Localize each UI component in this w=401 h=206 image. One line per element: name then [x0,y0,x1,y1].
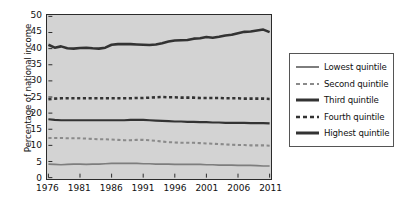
x-tick-label: 1996 [163,183,186,193]
series-line-lowest-quintile [48,163,269,166]
y-tick-label: 40 [14,44,42,53]
legend-item[interactable]: Highest quintile [295,125,389,142]
legend-line-swatch [295,94,320,106]
y-tick-label: 15 [14,125,42,134]
x-tick-label: 2011 [259,183,282,193]
chart-legend: Lowest quintileSecond quintileThird quin… [289,53,394,147]
x-tick-label: 1981 [68,183,91,193]
legend-label: Lowest quintile [324,62,387,72]
legend-label: Highest quintile [324,128,389,138]
legend-label: Fourth quintile [324,112,384,122]
series-line-highest-quintile [48,30,269,49]
x-tick-label: 1991 [132,183,155,193]
y-tick-label: 25 [14,93,42,102]
y-tick-label: 35 [14,60,42,69]
legend-line-swatch [295,111,320,123]
y-tick-label: 30 [14,76,42,85]
x-axis-tick-labels: 19761981198619911996200120062011 [0,181,401,197]
legend-item[interactable]: Fourth quintile [295,109,389,126]
legend-item[interactable]: Third quintile [295,92,389,109]
y-axis-tick-labels: 05101520253035404550 [14,0,42,206]
series-line-fourth-quintile [48,97,269,99]
legend-label: Third quintile [324,95,379,105]
legend-line-swatch [295,78,320,90]
y-tick-label: 45 [14,27,42,36]
legend-item[interactable]: Second quintile [295,76,389,93]
series-line-second-quintile [48,138,269,146]
legend-label: Second quintile [324,79,388,89]
legend-line-swatch [295,127,320,139]
x-tick-label: 2001 [195,183,218,193]
series-line-third-quintile [48,119,269,123]
y-tick-label: 20 [14,109,42,118]
y-tick-label: 5 [14,158,42,167]
x-tick-label: 1986 [100,183,123,193]
x-tick-label: 1976 [36,183,59,193]
x-tick-label: 2006 [227,183,250,193]
y-tick-label: 10 [14,141,42,150]
y-tick-label: 50 [14,11,42,20]
plot-area [46,14,272,180]
legend-item[interactable]: Lowest quintile [295,59,389,76]
plot-lines [47,15,271,179]
chart-figure: Percentage of national income 0510152025… [0,0,401,206]
legend-line-swatch [295,61,320,73]
